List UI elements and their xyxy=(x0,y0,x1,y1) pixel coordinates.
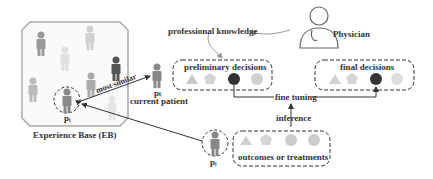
final-decisions-label: final decisions xyxy=(340,63,394,72)
inference-label: inference xyxy=(276,114,311,123)
professional-knowledge-label: professional knowledge xyxy=(168,27,258,36)
pi-eb-label: pᵢ xyxy=(64,114,71,123)
fine-tuning-label: fine tuning xyxy=(275,93,317,102)
knowledge-to-preliminary-arrow xyxy=(208,33,222,58)
current-patient-label: current patient xyxy=(130,97,188,106)
pi-bottom-person-icon xyxy=(211,132,220,157)
preliminary-decisions-label: preliminary decisions xyxy=(184,63,267,72)
physician-icon xyxy=(300,7,338,48)
fine-tuning-right-line xyxy=(312,87,376,97)
diagram-root: Experience Base (EB) pᵢ most similar pₜ … xyxy=(0,0,433,179)
experience-base-label: Experience Base (EB) xyxy=(33,131,117,140)
current-patient-icon xyxy=(153,64,162,89)
fine-tuning-left-line xyxy=(234,85,274,97)
physician-label: Physician xyxy=(333,30,370,39)
outcomes-or-treatments-label: outcomes or treatments xyxy=(238,153,328,162)
pi-bottom-label: pᵢ xyxy=(210,158,217,167)
